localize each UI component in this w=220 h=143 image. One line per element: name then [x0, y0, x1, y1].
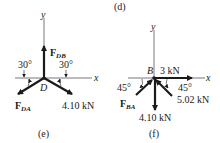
free-body-diagrams: y x FDB FDA 4.10 kN D 30° 30° (e) (d) — [0, 0, 220, 143]
x-axis-label: x — [93, 72, 99, 83]
angle-arc-left — [140, 79, 143, 88]
angle-arc-left — [28, 79, 29, 86]
y-axis-label: y — [150, 21, 156, 32]
force-label-3kn: 3 kN — [160, 65, 180, 76]
angle-label-left: 45° — [117, 82, 131, 93]
angle-arc-right — [166, 79, 168, 88]
y-axis-label: y — [40, 9, 46, 20]
angle-arc-right — [60, 79, 61, 86]
force-arrow-fba — [136, 80, 152, 95]
figure-caption-e: (e) — [38, 128, 49, 140]
x-axis-label: x — [205, 72, 211, 83]
figure-caption-f: (f) — [149, 128, 159, 140]
force-label-fda: FDA — [15, 100, 31, 113]
origin-label-d: D — [39, 82, 48, 93]
force-arrow-502kn — [156, 80, 172, 96]
origin-point-d — [42, 76, 45, 79]
origin-point-b — [152, 76, 156, 80]
figure-caption-d: (d) — [114, 1, 126, 13]
force-label-502kn: 5.02 kN — [177, 94, 209, 105]
origin-label-b: B — [147, 65, 153, 76]
force-arrow-410kn — [44, 78, 72, 94]
force-label-410kn: 4.10 kN — [62, 100, 94, 111]
angle-label-left: 30° — [18, 59, 32, 70]
force-label-410kn: 4.10 kN — [139, 112, 171, 123]
figure-f: (d) y x 3 kN FBA 5.02 kN 4.10 kN B 45° 4… — [114, 1, 211, 140]
force-label-fba: FBA — [120, 98, 136, 111]
angle-label-right: 30° — [59, 59, 73, 70]
figure-e: y x FDB FDA 4.10 kN D 30° 30° (e) — [15, 9, 99, 140]
angle-label-right: 45° — [178, 82, 192, 93]
